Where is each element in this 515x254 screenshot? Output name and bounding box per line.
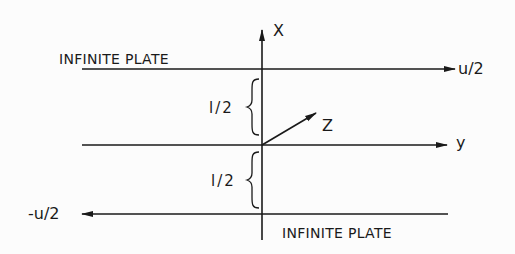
upper-gap-label: l/2 (209, 101, 234, 116)
top-plate-label: INFINITE PLATE (59, 52, 169, 66)
z-axis-label: Z (322, 118, 333, 134)
bottom-plate-label: INFINITE PLATE (282, 226, 392, 240)
lower-gap-label: l/2 (211, 174, 236, 189)
top-velocity-label: u/2 (458, 61, 484, 77)
lower-gap-brace (247, 152, 259, 208)
upper-gap-brace (247, 79, 259, 135)
x-axis-label: X (273, 23, 284, 39)
y-axis-label: y (456, 135, 465, 151)
z-axis-line (262, 113, 316, 145)
diagram-canvas: INFINITE PLATE u/2 X l/2 Z y l/2 -u/2 IN… (0, 0, 515, 254)
diagram-graphics (0, 0, 515, 254)
bottom-velocity-label: -u/2 (28, 206, 59, 222)
